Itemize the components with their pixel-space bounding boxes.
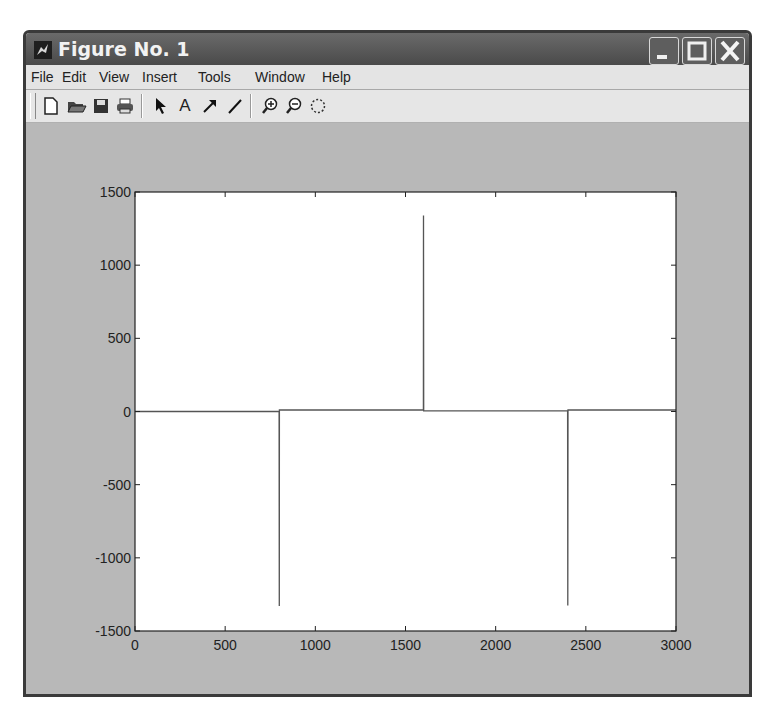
menu-edit[interactable]: Edit bbox=[62, 69, 86, 85]
maximize-icon bbox=[689, 43, 705, 59]
zoom-in-button[interactable] bbox=[259, 95, 281, 117]
menu-window[interactable]: Window bbox=[255, 69, 305, 85]
zoom-in-icon bbox=[261, 97, 279, 115]
new-file-icon bbox=[43, 97, 59, 115]
y-tick-label: -1000 bbox=[95, 550, 131, 566]
zoom-out-button[interactable] bbox=[283, 95, 305, 117]
y-tick-label: 1500 bbox=[100, 184, 131, 200]
zoom-out-icon bbox=[285, 97, 303, 115]
toolbar-separator bbox=[250, 94, 252, 118]
toolbar-separator bbox=[141, 94, 143, 118]
x-tick-label: 1000 bbox=[300, 637, 331, 653]
menu-help[interactable]: Help bbox=[322, 69, 351, 85]
x-tick-label: 0 bbox=[131, 637, 139, 653]
x-tick-label: 1500 bbox=[390, 637, 421, 653]
minimize-icon bbox=[657, 55, 667, 59]
insert-text-button[interactable]: A bbox=[174, 95, 196, 117]
rotate-3d-button[interactable] bbox=[307, 95, 329, 117]
arrow-icon bbox=[201, 97, 219, 115]
print-button[interactable] bbox=[114, 95, 136, 117]
y-tick-label: 500 bbox=[108, 330, 132, 346]
save-icon bbox=[93, 98, 109, 114]
line-chart[interactable]: 050010001500200025003000150010005000-500… bbox=[26, 123, 749, 694]
toolbar-grip[interactable] bbox=[30, 93, 36, 119]
maximize-button[interactable] bbox=[682, 37, 712, 65]
matlab-figure-icon bbox=[34, 41, 52, 59]
figure-toolbar: A bbox=[26, 90, 749, 123]
menu-file[interactable]: File bbox=[31, 69, 54, 85]
line-icon bbox=[226, 97, 244, 115]
x-tick-label: 500 bbox=[213, 637, 237, 653]
insert-line-button[interactable] bbox=[224, 95, 246, 117]
y-tick-label: -500 bbox=[103, 477, 131, 493]
open-file-button[interactable] bbox=[66, 95, 88, 117]
y-tick-label: 1000 bbox=[100, 257, 131, 273]
open-folder-icon bbox=[67, 98, 87, 114]
save-button[interactable] bbox=[90, 95, 112, 117]
close-button[interactable] bbox=[715, 37, 745, 65]
menu-bar: File Edit View Insert Tools Window Help bbox=[26, 65, 749, 90]
menu-insert[interactable]: Insert bbox=[142, 69, 177, 85]
pointer-arrow-icon bbox=[154, 97, 168, 115]
figure-canvas: 050010001500200025003000150010005000-500… bbox=[26, 123, 749, 694]
y-tick-label: -1500 bbox=[95, 623, 131, 639]
x-tick-label: 3000 bbox=[660, 637, 691, 653]
edit-plot-button[interactable] bbox=[150, 95, 172, 117]
x-tick-label: 2500 bbox=[570, 637, 601, 653]
insert-arrow-button[interactable] bbox=[199, 95, 221, 117]
rotate-icon bbox=[309, 97, 327, 115]
window-title: Figure No. 1 bbox=[58, 38, 190, 60]
menu-view[interactable]: View bbox=[99, 69, 129, 85]
close-icon bbox=[722, 42, 738, 60]
menu-tools[interactable]: Tools bbox=[198, 69, 231, 85]
minimize-button[interactable] bbox=[649, 37, 679, 65]
print-icon bbox=[116, 98, 134, 114]
new-figure-button[interactable] bbox=[40, 95, 62, 117]
text-a-icon: A bbox=[179, 96, 190, 116]
figure-window: Figure No. 1 File Edit View Insert Tools… bbox=[23, 30, 752, 697]
x-tick-label: 2000 bbox=[480, 637, 511, 653]
y-tick-label: 0 bbox=[123, 404, 131, 420]
title-bar[interactable]: Figure No. 1 bbox=[26, 33, 749, 65]
